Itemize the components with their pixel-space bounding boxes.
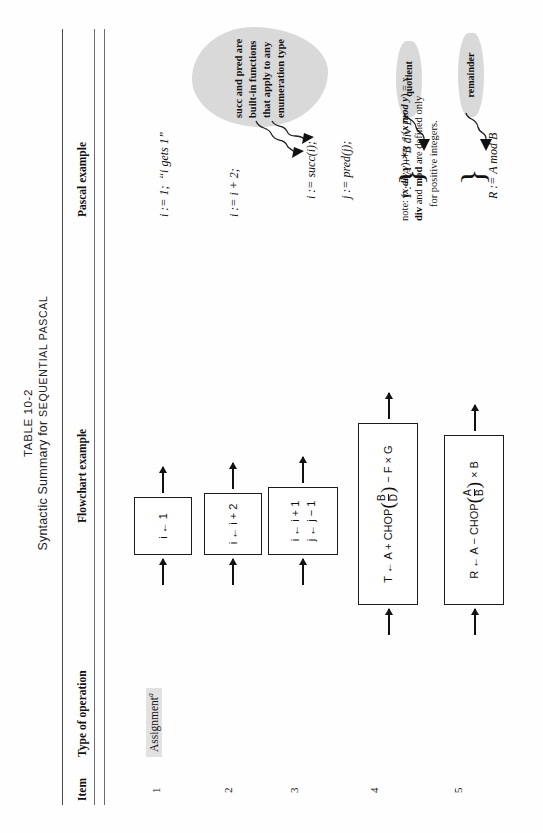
flowchart-box-4-suffix: − F × G <box>380 445 397 482</box>
flow-arrow-in-3 <box>302 559 304 585</box>
table-subtitle: Syntactic Summary for SEQUENTIAL PASCAL <box>36 103 50 743</box>
type-of-operation-text: Assignment <box>148 697 160 752</box>
remainder-leader-line <box>460 111 494 161</box>
flowchart-box-5-suffix: × B <box>466 461 483 478</box>
flowchart-box-4-prefix: T ← A + CHOP <box>380 509 397 583</box>
flowchart-box-3-line-1: i ← i + 1 <box>287 501 304 542</box>
note-tail: ) = x. <box>399 74 410 97</box>
flowchart-box-2: i ← i + 2 <box>204 493 262 555</box>
div-mod-note-line-2: div and mod are defined only <box>412 74 426 221</box>
column-header-item: Item <box>76 778 88 801</box>
table-title-block: TABLE 10-2 Syntactic Summary for SEQUENT… <box>22 103 50 743</box>
flowchart-box-1: i ← 1 <box>134 497 192 555</box>
table-top-rule <box>62 29 63 805</box>
succ-pred-callout-cloud: succ and pred are built-in functions tha… <box>192 27 328 127</box>
flowchart-box-5-denominator: B <box>474 489 486 496</box>
flowchart-box-3-line-2: j ← j − 1 <box>303 501 320 542</box>
flowchart-box-5-numerator: A <box>463 489 474 496</box>
type-of-operation-footnote-marker: a <box>146 693 155 697</box>
column-header-type-of-operation: Type of operation <box>76 670 88 757</box>
scanned-page-wrapper: TABLE 10-2 Syntactic Summary for SEQUENT… <box>0 0 543 833</box>
flow-arrow-in-4 <box>388 609 390 635</box>
table-subtitle-plain: Syntactic Summary for <box>36 417 50 551</box>
note-x-mod-y: x mod y <box>399 97 410 131</box>
type-of-operation-highlight: Assignmenta <box>146 688 162 757</box>
row-type-of-operation-1: Assignmenta <box>146 688 160 757</box>
flow-arrow-in-2 <box>232 559 234 585</box>
remainder-brace: } <box>456 169 490 185</box>
flowchart-box-4-close-paren: ) <box>380 487 396 493</box>
flowchart-box-3: i ← i + 1 j ← j − 1 <box>268 487 338 555</box>
flow-arrow-out-4 <box>388 393 390 419</box>
note-and: and <box>413 187 424 207</box>
table-subtitle-smallcaps: SEQUENTIAL PASCAL <box>37 295 49 417</box>
div-mod-note-line-1: note: (x div y) ∗y + (x mod y) = x. <box>398 74 412 221</box>
succ-pred-callout-text: succ and pred are built-in functions tha… <box>232 36 287 118</box>
note-mid: ) ∗y + ( <box>399 131 410 166</box>
flowchart-box-4-fraction: B D <box>377 494 399 501</box>
remainder-callout-text: remainder <box>464 41 477 109</box>
flowchart-box-5-prefix: R ← A − CHOP <box>466 503 483 579</box>
flowchart-box-4: T ← A + CHOP ( B D ) − F × G <box>358 423 418 605</box>
pascal-example-1: i := 1; “i gets 1” <box>156 132 173 217</box>
note-defined-only: are defined only <box>413 96 424 167</box>
row-item-number-2: 2 <box>222 788 234 794</box>
div-mod-note: note: (x div y) ∗y + (x mod y) = x. div … <box>398 74 441 221</box>
note-div-keyword: div <box>413 207 424 221</box>
table-bottom-rule <box>104 29 105 805</box>
table-page: TABLE 10-2 Syntactic Summary for SEQUENT… <box>0 0 543 833</box>
note-mod-keyword: mod <box>413 167 424 187</box>
row-item-number-5: 5 <box>452 788 464 794</box>
pascal-example-2: i := i + 2; <box>226 168 243 217</box>
flowchart-box-4-denominator: D <box>388 494 400 501</box>
flow-arrow-in-5 <box>474 609 476 635</box>
pascal-example-3-line-2: j := pred(j); <box>339 141 353 199</box>
flowchart-box-4-open-paren: ( <box>380 502 396 508</box>
flowchart-box-4-numerator: B <box>377 494 388 501</box>
note-x-div-y: x div y <box>399 166 410 194</box>
flowchart-box-2-line-1: i ← i + 2 <box>225 504 242 545</box>
note-prefix: note: ( <box>399 194 410 221</box>
row-item-number-1: 1 <box>150 788 162 794</box>
column-header-pascal-example: Pascal example <box>76 142 88 217</box>
flow-arrow-out-5 <box>474 405 476 431</box>
div-mod-note-line-3: for positive integers. <box>427 74 441 221</box>
row-item-number-3: 3 <box>288 788 300 794</box>
succ-pred-leader-lines <box>246 119 318 171</box>
note-positive-integers: for positive integers. <box>428 120 439 207</box>
flowchart-box-5: R ← A − CHOP ( A B ) × B <box>444 435 504 605</box>
flowchart-box-1-line-1: i ← 1 <box>155 513 172 539</box>
remainder-callout-cloud: remainder <box>458 33 484 117</box>
column-header-flowchart-example: Flowchart example <box>76 429 88 523</box>
row-item-number-4: 4 <box>368 788 380 794</box>
flow-arrow-in-1 <box>162 559 164 585</box>
flowchart-box-5-fraction: A B <box>463 489 485 496</box>
flow-arrow-out-3 <box>302 457 304 483</box>
flow-arrow-out-1 <box>162 467 164 493</box>
flowchart-box-5-close-paren: ) <box>466 482 482 488</box>
table-header-rule <box>94 29 95 805</box>
flow-arrow-out-2 <box>232 463 234 489</box>
flowchart-box-5-open-paren: ( <box>466 497 482 503</box>
table-number-label: TABLE 10-2 <box>22 103 34 743</box>
